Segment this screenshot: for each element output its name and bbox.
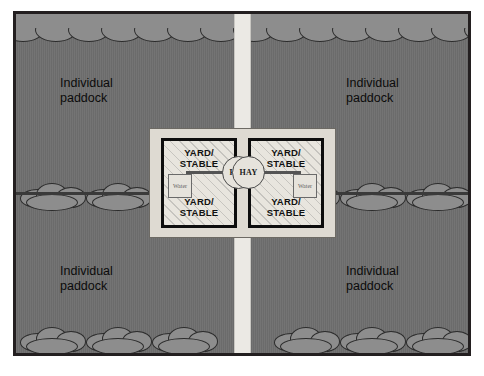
water-trough-right: Water	[293, 174, 317, 198]
water-trough-left: Water	[168, 174, 192, 198]
feed-line-left	[186, 171, 226, 174]
stable-complex: YARD/ STABLE YARD/ STABLE Water YARD/ ST…	[149, 128, 336, 238]
fence-line-right	[334, 192, 468, 195]
paddock-plan-figure: YARD/ STABLE YARD/ STABLE Water YARD/ ST…	[0, 0, 484, 376]
yard-label-left-bottom: YARD/ STABLE	[164, 197, 234, 218]
paddock-label-top-left: Individual paddock	[60, 76, 113, 106]
paddock-label-bottom-left: Individual paddock	[60, 264, 113, 294]
plan-frame: YARD/ STABLE YARD/ STABLE Water YARD/ ST…	[13, 11, 471, 356]
yard-label-right-bottom: YARD/ STABLE	[251, 197, 321, 218]
paddock-label-top-right: Individual paddock	[346, 76, 399, 106]
fence-line-left	[16, 192, 151, 195]
hay-feeder-right: HAY	[232, 156, 265, 189]
paddock-label-bottom-right: Individual paddock	[346, 264, 399, 294]
feed-line-right	[261, 171, 301, 174]
